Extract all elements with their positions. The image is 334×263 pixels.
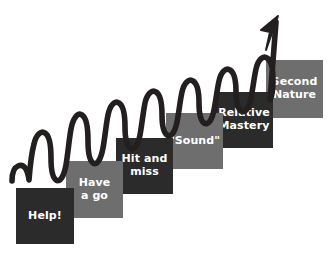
step-block-1[interactable]: Help! [16, 188, 74, 244]
step-label-2: Have a go [79, 177, 111, 203]
step-block-2[interactable]: Have a go [66, 161, 123, 218]
step-label-5: Relative Mastery [218, 107, 270, 133]
step-block-4[interactable]: "Sound" [166, 113, 223, 169]
step-label-3: Hit and miss [122, 153, 168, 179]
arrow-head-icon [261, 16, 278, 50]
diagram-canvas: Help! Have a go Hit and miss "Sound" Rel… [0, 0, 334, 263]
step-block-3[interactable]: Hit and miss [116, 138, 173, 194]
step-block-5[interactable]: Relative Mastery [215, 92, 273, 148]
step-label-4: "Sound" [169, 135, 220, 148]
step-label-6: Second Nature [272, 76, 318, 102]
step-block-6[interactable]: Second Nature [266, 60, 323, 118]
step-label-1: Help! [28, 210, 62, 223]
